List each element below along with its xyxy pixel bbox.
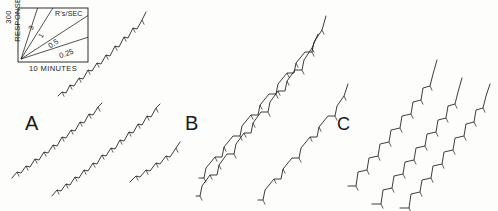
legend-y-axis-label: 300 RESPONSES — [4, 0, 22, 48]
cumulative-record-trace — [199, 16, 326, 183]
legend-x-axis-label: 10 MINUTES — [16, 64, 90, 73]
cumulative-record-trace — [400, 84, 490, 211]
cumulative-record-trace — [372, 78, 462, 209]
plot-canvas — [0, 0, 498, 211]
panel-label-c: C — [337, 114, 351, 135]
cumulative-record-trace — [348, 60, 437, 191]
cumulative-record-trace — [258, 84, 348, 205]
cumulative-record-figure: 300 RESPONSES 10 MINUTES R's/SEC 3 1 0.5… — [0, 0, 498, 211]
cumulative-record-trace — [52, 104, 160, 196]
cumulative-record-trace — [130, 142, 180, 182]
panel-label-b: B — [185, 112, 199, 135]
panel-label-a: A — [25, 112, 39, 135]
records-layer — [12, 12, 490, 211]
legend-units-title: R's/SEC — [55, 10, 83, 17]
